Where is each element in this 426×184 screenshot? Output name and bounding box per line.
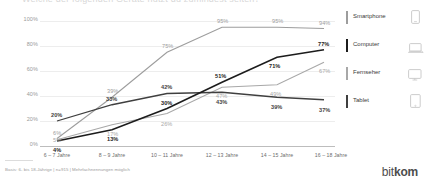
legend-item-fernseher[interactable]: Fernseher	[346, 64, 426, 84]
legend-color-swatch	[346, 67, 348, 80]
data-label-tablet: 39%	[271, 104, 282, 110]
data-label-smartphone: 39%	[107, 88, 118, 94]
footer-divider	[5, 160, 33, 161]
x-tick-label: 8 – 9 Jahre	[83, 152, 141, 158]
legend-color-swatch	[346, 11, 348, 24]
data-label-smartphone: 6%	[53, 130, 61, 136]
data-label-tablet: 43%	[216, 99, 227, 105]
smartphone-icon	[411, 10, 420, 28]
data-label-fernseher: 5%	[53, 137, 61, 143]
bitkom-logo-bold: kom	[394, 165, 418, 179]
legend-item-tablet[interactable]: Tablet	[346, 92, 426, 112]
legend-item-smartphone[interactable]: Smartphone	[346, 8, 426, 28]
data-label-tablet: 33%	[106, 96, 117, 102]
legend-item-label: Computer	[353, 41, 379, 47]
bitkom-logo-light: bit	[382, 165, 394, 179]
data-label-smartphone: 95%	[272, 18, 283, 24]
x-axis: 6 – 7 Jahre 8 – 9 Jahre 10 – 11 Jahre 12…	[0, 152, 340, 164]
data-label-tablet: 20%	[51, 112, 62, 118]
line-fernseher	[57, 62, 324, 140]
laptop-icon	[408, 40, 424, 58]
series-lines	[0, 7, 340, 152]
legend-color-swatch	[346, 39, 348, 52]
chart-title-cutoff: Welche der folgenden Geräte nutzt du zum…	[0, 0, 426, 7]
data-label-fernseher: 17%	[107, 131, 118, 137]
data-label-computer: 71%	[269, 63, 280, 69]
x-tick-label: 16 – 18 Jahre	[302, 152, 360, 158]
data-label-tablet: 42%	[161, 84, 172, 90]
data-label-fernseher: 26%	[161, 121, 172, 127]
x-tick-label: 14 – 15 Jahre	[248, 152, 306, 158]
data-label-computer: 77%	[318, 41, 329, 47]
line-computer	[57, 50, 324, 141]
legend-item-label: Smartphone	[353, 13, 386, 19]
x-tick-label: 10 – 11 Jahre	[138, 152, 196, 158]
chart-legend: Smartphone Computer Fernseher	[346, 8, 426, 120]
chart-plot-area: 100% 80% 60% 40% 20% 0% 6%39%75%95%95%94…	[0, 7, 340, 152]
x-tick-label: 6 – 7 Jahre	[28, 152, 86, 158]
television-icon	[408, 67, 423, 85]
x-tick-label: 12 – 13 Jahre	[193, 152, 251, 158]
data-label-computer: 51%	[215, 73, 226, 79]
bitkom-logo: bitkom	[382, 165, 418, 179]
data-label-tablet: 37%	[319, 107, 330, 113]
data-label-fernseher: 49%	[270, 91, 281, 97]
line-smartphone	[57, 27, 324, 138]
data-label-fernseher: 67%	[319, 68, 330, 74]
legend-item-computer[interactable]: Computer	[346, 36, 426, 56]
legend-item-label: Fernseher	[353, 69, 380, 75]
footnote-text: Basis: 6- bis 18-Jährige | n=915 | Mehrf…	[5, 167, 130, 172]
legend-color-swatch	[346, 95, 348, 108]
data-label-smartphone: 75%	[162, 43, 173, 49]
chart-title-text: Welche der folgenden Geräte nutzt du zum…	[22, 0, 260, 4]
tablet-icon	[410, 94, 421, 112]
legend-item-label: Tablet	[353, 97, 369, 103]
data-label-smartphone: 95%	[217, 18, 228, 24]
data-label-computer: 30%	[161, 100, 172, 106]
data-label-smartphone: 94%	[319, 20, 330, 26]
